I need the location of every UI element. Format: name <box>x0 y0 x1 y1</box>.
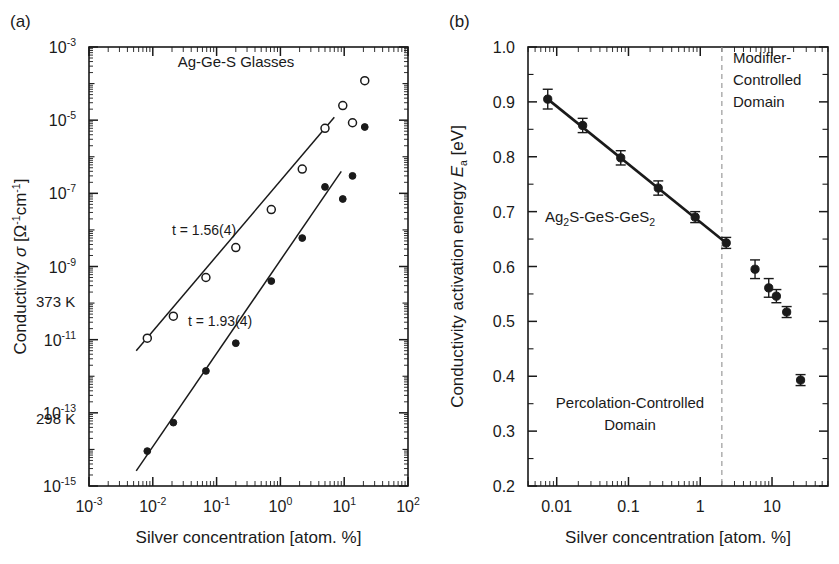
panel-a-datapoint-298k <box>299 235 306 242</box>
panel-b-datapoint <box>796 376 804 384</box>
panel-a-ytick-label: 10-9 <box>49 256 76 276</box>
panel-a-datapoint-298k <box>170 419 177 426</box>
panel-a-datapoint-373k <box>232 244 240 252</box>
panel-b-ytick-label: 0.4 <box>493 368 515 385</box>
figure-container: (a)10-1510-1310-1110-910-710-510-310-310… <box>0 0 839 564</box>
panel-b-xtick-label: 1 <box>696 498 705 515</box>
panel-b-xaxis-title: Silver concentration [atom. %] <box>565 528 791 547</box>
panel-b-datapoint <box>617 154 625 162</box>
panel-b-ytick-label: 0.8 <box>493 149 515 166</box>
panel-a-datapoint-298k <box>232 340 239 347</box>
panel-a-datapoint-373k <box>298 165 306 173</box>
panel-b-datapoint <box>751 265 759 273</box>
panel-a-datapoint-298k <box>361 124 368 131</box>
scientific-figure: (a)10-1510-1310-1110-910-710-510-310-310… <box>0 0 839 564</box>
panel-b-ytick-label: 0.6 <box>493 259 515 276</box>
panel-b-datapoint <box>579 121 587 129</box>
panel-b-modifier-domain-line-1: Controlled <box>733 71 801 88</box>
panel-a-title-annotation: Ag-Ge-S Glasses <box>178 53 295 70</box>
panel-b-xtick-label: 0.01 <box>541 498 572 515</box>
panel-a-fit-label-373k: t = 1.56(4) <box>172 222 236 238</box>
panel-a: (a)10-1510-1310-1110-910-710-510-310-310… <box>10 12 420 547</box>
panel-b-ytick-label: 0.3 <box>493 423 515 440</box>
panel-b-yaxis-title: Conductivity activation energy Ea [eV] <box>448 125 469 408</box>
panel-b-composition-annotation: Ag2S-GeS-GeS2 <box>545 208 655 228</box>
panel-a-ytick-label: 10-5 <box>49 109 76 129</box>
panel-a-datapoint-373k <box>361 77 369 85</box>
panel-a-datapoint-373k <box>321 124 329 132</box>
panel-b: (b)0.20.30.40.50.60.70.80.91.00.010.1110… <box>448 12 828 547</box>
panel-a-xtick-label: 10-1 <box>203 495 230 515</box>
panel-b-ytick-label: 1.0 <box>493 39 515 56</box>
panel-a-series-label-298k: 298 K <box>36 410 75 427</box>
panel-b-ytick-label: 0.9 <box>493 94 515 111</box>
panel-a-datapoint-298k <box>203 368 210 375</box>
panel-a-datapoint-298k <box>268 278 275 285</box>
panel-a-datapoint-298k <box>349 172 356 179</box>
panel-b-datapoint <box>772 292 780 300</box>
panel-b-ytick-label: 0.2 <box>493 478 515 495</box>
panel-b-datapoint <box>691 213 699 221</box>
panel-a-label: (a) <box>10 12 31 31</box>
panel-a-datapoint-373k <box>143 334 151 342</box>
panel-b-plot-frame <box>528 47 828 486</box>
panel-a-xaxis-title: Silver concentration [atom. %] <box>136 528 362 547</box>
panel-b-ytick-label: 0.7 <box>493 204 515 221</box>
panel-b-datapoint <box>783 308 791 316</box>
panel-a-xtick-label: 10-3 <box>75 495 102 515</box>
panel-a-datapoint-298k <box>322 183 329 190</box>
panel-a-datapoint-373k <box>339 102 347 110</box>
panel-a-xtick-label: 100 <box>269 495 293 515</box>
panel-a-ytick-label: 10-11 <box>44 329 76 349</box>
panel-a-fit-label-298k: t = 1.93(4) <box>188 313 252 329</box>
panel-b-datapoint <box>765 284 773 292</box>
panel-b-modifier-domain-line-2: Domain <box>733 93 785 110</box>
panel-b-datapoint <box>722 239 730 247</box>
panel-a-datapoint-373k <box>202 274 210 282</box>
panel-a-yaxis-title: Conductivity σ [Ω-1cm-1] <box>10 179 30 355</box>
panel-b-xtick-label: 0.1 <box>617 498 639 515</box>
panel-a-datapoint-298k <box>339 196 346 203</box>
panel-a-datapoint-373k <box>267 206 275 214</box>
panel-b-xtick-label: 10 <box>763 498 781 515</box>
panel-b-datapoint <box>544 95 552 103</box>
panel-a-ytick-label: 10-7 <box>49 182 76 202</box>
panel-a-datapoint-373k <box>169 312 177 320</box>
panel-a-ytick-label: 10-3 <box>49 36 76 56</box>
panel-b-percolation-domain-line-0: Percolation-Controlled <box>556 394 704 411</box>
panel-a-ytick-label: 10-15 <box>43 475 76 495</box>
panel-a-xtick-label: 101 <box>332 495 356 515</box>
panel-a-plot-frame <box>89 47 408 486</box>
panel-b-percolation-domain-line-1: Domain <box>604 416 656 433</box>
panel-a-series-label-373k: 373 K <box>36 293 75 310</box>
panel-b-ytick-label: 0.5 <box>493 313 515 330</box>
panel-b-modifier-domain-line-0: Modifier- <box>733 49 791 66</box>
panel-a-xtick-label: 102 <box>396 495 420 515</box>
panel-b-datapoint <box>654 184 662 192</box>
panel-a-xtick-label: 10-2 <box>139 495 166 515</box>
panel-b-label: (b) <box>449 12 470 31</box>
panel-a-datapoint-298k <box>144 448 151 455</box>
panel-a-datapoint-373k <box>349 119 357 127</box>
